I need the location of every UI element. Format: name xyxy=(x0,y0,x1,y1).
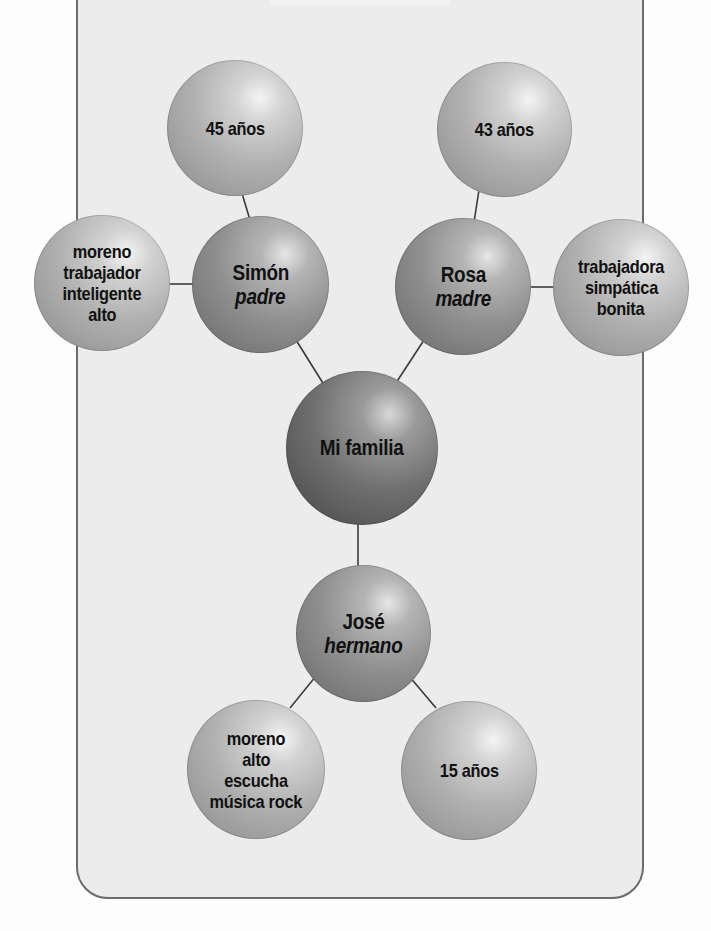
node-label: escucha xyxy=(224,770,288,791)
node-rosa: Rosa madre xyxy=(395,218,531,355)
person-name: José xyxy=(342,610,384,634)
center-label: Mi familia xyxy=(320,436,404,460)
node-label: música rock xyxy=(210,791,303,812)
node-simon-age: 45 años xyxy=(167,60,303,196)
person-name: Simón xyxy=(232,261,289,285)
node-label: inteligente xyxy=(63,283,142,304)
node-label: alto xyxy=(242,749,270,770)
node-mi-familia: Mi familia xyxy=(286,371,438,525)
node-label: trabajadora xyxy=(578,256,664,277)
edge-jose-jose-traits xyxy=(290,676,316,708)
node-label: moreno xyxy=(73,241,131,262)
node-jose-traits: moreno alto escucha música rock xyxy=(187,700,325,839)
node-simon: Simón padre xyxy=(192,216,329,353)
node-jose-age: 15 años xyxy=(401,701,537,840)
node-rosa-age: 43 años xyxy=(437,62,572,197)
node-jose: José hermano xyxy=(296,565,431,702)
person-role: padre xyxy=(235,285,285,309)
edge-rosa-age-rosa xyxy=(474,190,479,222)
node-label: alto xyxy=(88,304,116,325)
edge-simon-center xyxy=(296,340,326,388)
person-name: Rosa xyxy=(440,263,485,287)
node-label: trabajador xyxy=(63,262,140,283)
node-label: 45 años xyxy=(205,118,264,139)
node-label: moreno xyxy=(227,728,285,749)
node-label: simpática xyxy=(584,277,657,298)
edge-jose-jose-age xyxy=(409,676,436,708)
node-label: bonita xyxy=(597,298,644,319)
person-role: madre xyxy=(435,287,491,311)
node-label: 43 años xyxy=(475,119,534,140)
node-label: 15 años xyxy=(439,760,498,781)
node-simon-traits: moreno trabajador inteligente alto xyxy=(34,215,170,351)
node-rosa-traits: trabajadora simpática bonita xyxy=(553,219,689,356)
edge-rosa-center xyxy=(394,340,424,386)
person-role: hermano xyxy=(324,634,402,658)
